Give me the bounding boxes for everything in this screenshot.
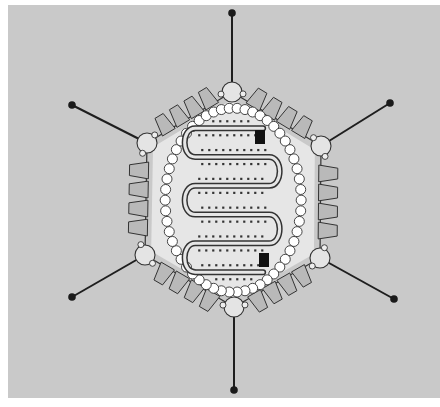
core-dot <box>247 134 249 136</box>
core-dot <box>233 178 235 180</box>
core-dot <box>233 134 235 136</box>
penton-base <box>222 82 242 102</box>
core-dot <box>257 163 259 165</box>
core-dot <box>254 235 256 237</box>
core-bead <box>171 246 181 256</box>
penton-satellite <box>309 263 315 269</box>
core-dot <box>208 149 210 151</box>
core-dot <box>240 120 242 122</box>
core-dot <box>236 207 238 209</box>
core-dot <box>233 249 235 251</box>
core-bead <box>296 184 306 194</box>
core-dot <box>240 192 242 194</box>
core-bead <box>292 164 302 174</box>
core-dot <box>236 163 238 165</box>
core-bead <box>167 236 177 246</box>
core-dot <box>261 235 263 237</box>
core-dot <box>201 149 203 151</box>
core-dot <box>250 163 252 165</box>
core-dot <box>250 221 252 223</box>
core-dot <box>240 235 242 237</box>
core-bead <box>296 206 306 216</box>
core-dot <box>240 134 242 136</box>
adenovirus-diagram <box>0 0 440 407</box>
core-dot <box>264 221 266 223</box>
core-dot <box>201 264 203 266</box>
core-dot <box>229 149 231 151</box>
hexon <box>128 219 147 236</box>
core-dot <box>229 207 231 209</box>
core-dot <box>229 163 231 165</box>
core-dot <box>257 207 259 209</box>
core-dot <box>201 221 203 223</box>
core-bead <box>164 227 174 237</box>
core-dot <box>236 221 238 223</box>
diagram-canvas <box>0 0 440 407</box>
core-dot <box>254 192 256 194</box>
hexon <box>129 200 148 217</box>
fiber-knob <box>68 101 76 109</box>
fiber-knob <box>390 295 398 303</box>
core-dot <box>222 221 224 223</box>
core-dot <box>222 264 224 266</box>
core-dot <box>243 264 245 266</box>
core-dot <box>215 264 217 266</box>
core-dot <box>198 134 200 136</box>
core-dot <box>236 264 238 266</box>
core-dot <box>215 163 217 165</box>
core-dot <box>264 163 266 165</box>
penton-satellite <box>240 91 246 97</box>
core-dot <box>264 207 266 209</box>
core-dot <box>212 235 214 237</box>
core-dot <box>208 163 210 165</box>
fiber-knob <box>68 293 76 301</box>
core-dot <box>250 207 252 209</box>
penton-satellite <box>311 135 317 141</box>
core-bead <box>285 145 295 155</box>
penton-satellite <box>321 245 327 251</box>
core-bead <box>160 195 170 205</box>
core-dot <box>198 249 200 251</box>
fiber-knob <box>228 9 236 17</box>
core-bead <box>294 174 304 184</box>
core-bead <box>161 184 171 194</box>
core-bead <box>292 227 302 237</box>
core-dot <box>257 149 259 151</box>
core-dot <box>247 120 249 122</box>
core-dot <box>233 120 235 122</box>
core-dot <box>222 207 224 209</box>
core-dot <box>243 207 245 209</box>
core-dot <box>226 192 228 194</box>
core-dot <box>226 235 228 237</box>
penton-satellite <box>220 302 226 308</box>
penton-satellite <box>150 260 156 266</box>
core-bead <box>289 236 299 246</box>
hexon <box>129 181 148 198</box>
core-dot <box>212 249 214 251</box>
core-dot <box>219 134 221 136</box>
core-bead <box>162 216 172 226</box>
core-dot <box>205 192 207 194</box>
core-bead <box>167 154 177 164</box>
core-dot <box>229 221 231 223</box>
core-dot <box>236 149 238 151</box>
core-dot <box>208 207 210 209</box>
core-dot <box>219 178 221 180</box>
core-dot <box>208 221 210 223</box>
core-dot <box>226 178 228 180</box>
core-dot <box>198 178 200 180</box>
core-dot <box>254 249 256 251</box>
core-dot <box>219 235 221 237</box>
terminal-protein <box>255 130 265 144</box>
core-dot <box>240 178 242 180</box>
core-dot <box>215 149 217 151</box>
core-dot <box>247 235 249 237</box>
core-dot <box>250 278 252 280</box>
core-dot <box>212 120 214 122</box>
core-dot <box>198 235 200 237</box>
core-dot <box>254 178 256 180</box>
core-bead <box>296 195 306 205</box>
fiber-knob <box>386 99 394 107</box>
core-dot <box>226 249 228 251</box>
core-bead <box>289 154 299 164</box>
